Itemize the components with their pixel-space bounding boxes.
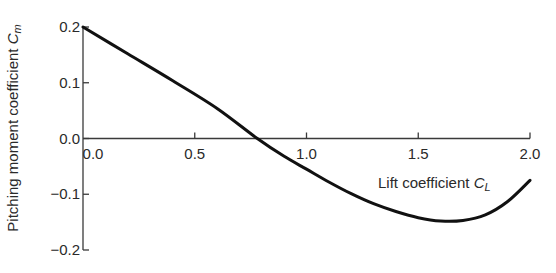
x-tick-label: 1.5	[408, 145, 429, 162]
x-axis-title: Lift coefficient CL	[378, 174, 491, 193]
y-tick-label: −0.2	[50, 241, 80, 258]
x-tick-label: 0.0	[83, 145, 104, 162]
chart: −0.2−0.10.00.10.2 0.00.51.01.52.0 Pitchi…	[0, 0, 556, 273]
y-tick-label: 0.2	[59, 18, 80, 35]
cm-vs-cl-curve	[83, 27, 530, 221]
x-axis: 0.00.51.01.52.0	[83, 133, 541, 162]
x-tick-label: 2.0	[520, 145, 541, 162]
y-tick-label: 0.1	[59, 74, 80, 91]
y-tick-label: 0.0	[59, 130, 80, 147]
y-tick-label: −0.1	[50, 185, 80, 202]
x-tick-label: 0.5	[184, 145, 205, 162]
y-axis-title: Pitching moment coefficient Cm	[4, 24, 23, 231]
x-tick-label: 1.0	[296, 145, 317, 162]
